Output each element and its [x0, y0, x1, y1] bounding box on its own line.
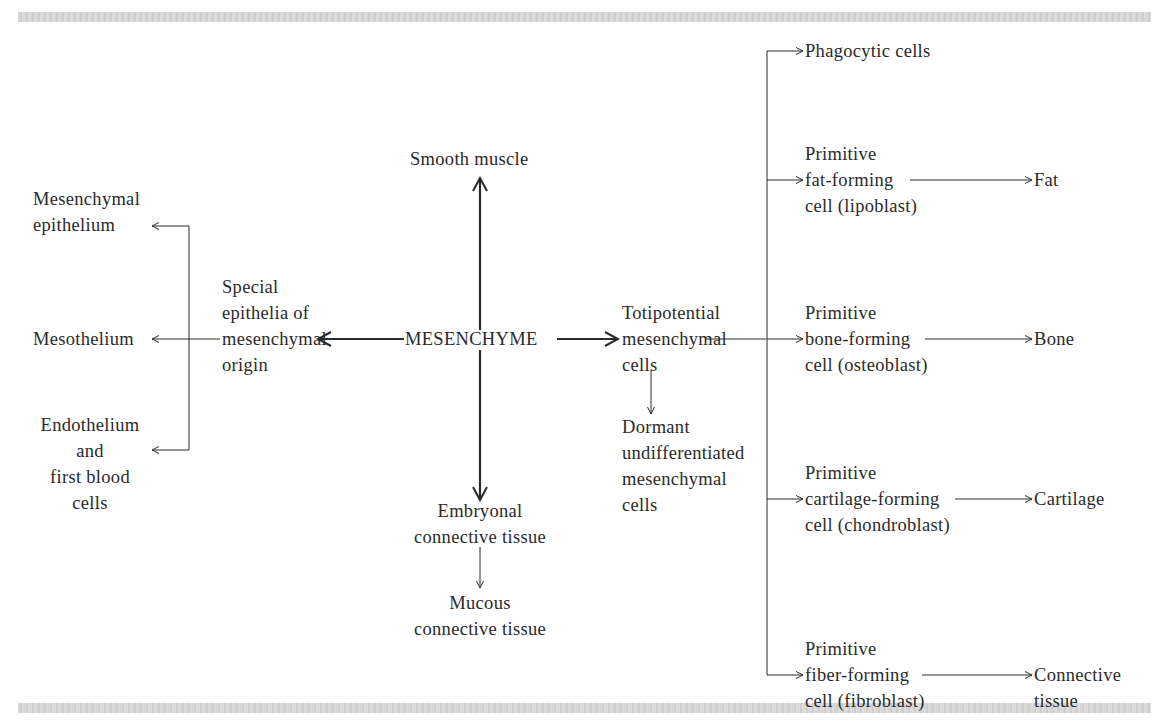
- bone-node: Bone: [1034, 326, 1074, 352]
- special-epithelia-node: Special epithelia of mesenchymal origin: [222, 274, 327, 378]
- osteoblast-node: Primitive bone-forming cell (osteoblast): [805, 300, 928, 378]
- fat-node: Fat: [1034, 167, 1059, 193]
- phagocytic-cells-node: Phagocytic cells: [805, 38, 931, 64]
- mesenchyme-node: MESENCHYME: [405, 326, 538, 352]
- mucous-connective-tissue-node: Mucous connective tissue: [400, 590, 560, 642]
- chondroblast-node: Primitive cartilage-forming cell (chondr…: [805, 460, 950, 538]
- totipotential-cells-node: Totipotential mesenchymal cells: [622, 300, 727, 378]
- smooth-muscle-node: Smooth muscle: [410, 146, 529, 172]
- mesothelium-node: Mesothelium: [33, 326, 134, 352]
- mesenchymal-epithelium-node: Mesenchymal epithelium: [33, 186, 140, 238]
- embryonal-connective-tissue-node: Embryonal connective tissue: [400, 498, 560, 550]
- endothelium-node: Endothelium and first blood cells: [28, 412, 152, 516]
- cartilage-node: Cartilage: [1034, 486, 1105, 512]
- lipoblast-node: Primitive fat-forming cell (lipoblast): [805, 141, 917, 219]
- dormant-cells-node: Dormant undifferentiated mesenchymal cel…: [622, 414, 745, 518]
- connector-lines: [0, 0, 1156, 727]
- connective-tissue-node: Connective tissue: [1034, 662, 1121, 714]
- fibroblast-node: Primitive fiber-forming cell (fibroblast…: [805, 636, 925, 714]
